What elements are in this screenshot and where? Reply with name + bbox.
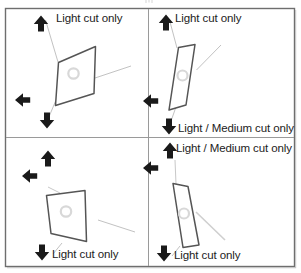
label-q1-top: Light cut only bbox=[56, 12, 122, 25]
label-q4-top: Light / Medium cut only bbox=[176, 142, 292, 155]
diagram-canvas bbox=[0, 0, 301, 273]
label-q3-bottom: Light cut only bbox=[52, 248, 118, 261]
label-q4-bottom: Light cut only bbox=[174, 249, 240, 262]
diagram-figure: Light cut only Light cut only Light / Me… bbox=[0, 0, 301, 273]
label-q2-top: Light cut only bbox=[175, 12, 241, 25]
label-q2-bottom: Light / Medium cut only bbox=[178, 122, 294, 135]
disc-shape bbox=[47, 191, 87, 242]
scan-artifact-top bbox=[146, 0, 152, 3]
diagram-frame bbox=[6, 9, 296, 268]
